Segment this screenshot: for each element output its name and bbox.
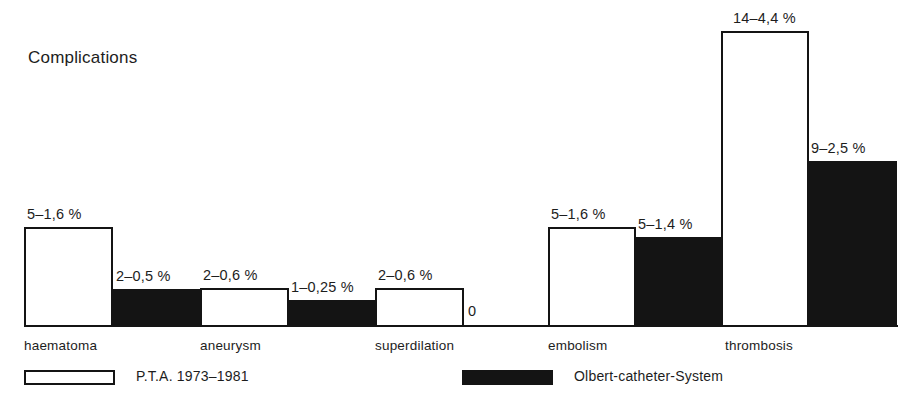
legend-item-pta[interactable]: P.T.A. 1973–1981 bbox=[24, 368, 424, 394]
category-label-thrombosis: thrombosis bbox=[725, 338, 793, 353]
bar-aneurysm-pta[interactable] bbox=[200, 288, 289, 327]
bar-haematoma-olbert[interactable] bbox=[113, 289, 201, 327]
value-label-aneurysm-pta: 2–0,6 % bbox=[203, 267, 258, 283]
value-label-thrombosis-olbert: 9–2,5 % bbox=[811, 140, 866, 156]
bar-embolism-olbert[interactable] bbox=[635, 237, 723, 327]
value-label-aneurysm-olbert: 1–0,25 % bbox=[291, 279, 354, 295]
value-label-haematoma-pta: 5–1,6 % bbox=[27, 206, 82, 222]
bar-thrombosis-pta[interactable] bbox=[721, 31, 809, 327]
complications-bar-chart: Complications 5–1,6 % 2–0,5 % 2–0,6 % 1–… bbox=[0, 0, 906, 416]
legend-item-olbert[interactable]: Olbert-catheter-System bbox=[462, 368, 892, 394]
plot-area: 5–1,6 % 2–0,5 % 2–0,6 % 1–0,25 % 2–0,6 %… bbox=[0, 0, 906, 330]
category-label-superdilation: superdilation bbox=[375, 338, 454, 353]
legend-swatch-white-icon bbox=[24, 370, 115, 385]
value-label-superdilation-olbert: 0 bbox=[468, 303, 476, 319]
bar-haematoma-pta[interactable] bbox=[24, 227, 113, 327]
value-label-thrombosis-pta: 14–4,4 % bbox=[733, 10, 796, 26]
value-label-superdilation-pta: 2–0,6 % bbox=[378, 267, 433, 283]
legend-label-olbert: Olbert-catheter-System bbox=[574, 368, 723, 384]
bar-embolism-pta[interactable] bbox=[548, 227, 636, 327]
legend-label-pta: P.T.A. 1973–1981 bbox=[136, 368, 249, 384]
category-label-haematoma: haematoma bbox=[24, 338, 97, 353]
category-label-aneurysm: aneurysm bbox=[200, 338, 261, 353]
bar-thrombosis-olbert[interactable] bbox=[808, 161, 897, 327]
bar-superdilation-pta[interactable] bbox=[375, 288, 464, 327]
bar-aneurysm-olbert[interactable] bbox=[288, 300, 376, 327]
value-label-embolism-pta: 5–1,6 % bbox=[551, 206, 606, 222]
chart-legend: P.T.A. 1973–1981 Olbert-catheter-System bbox=[0, 368, 906, 398]
category-label-embolism: embolism bbox=[548, 338, 607, 353]
value-label-embolism-olbert: 5–1,4 % bbox=[638, 216, 693, 232]
legend-swatch-black-icon bbox=[462, 370, 553, 385]
value-label-haematoma-olbert: 2–0,5 % bbox=[116, 268, 171, 284]
